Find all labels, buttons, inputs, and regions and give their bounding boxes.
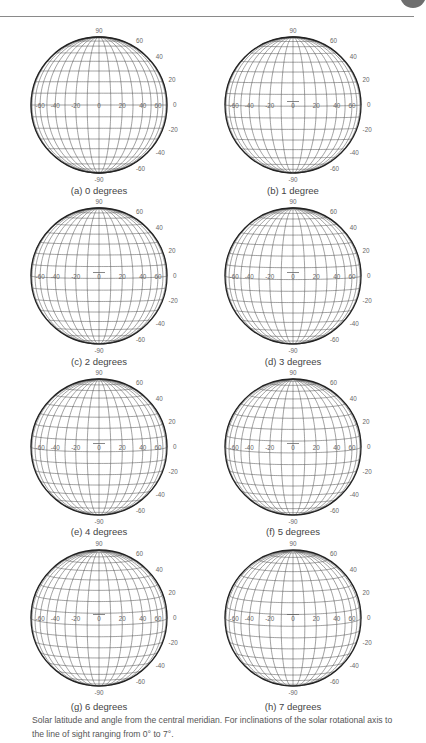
panel-h: -60-40-2002040606040200-20-40-6090-90 (h… [218,537,408,707]
latitude-label: -60 [330,507,340,514]
longitude-label: 20 [119,444,127,451]
latitude-label: -40 [156,320,166,327]
longitude-label: 60 [348,615,356,622]
longitude-label: 40 [333,102,341,109]
longitude-label: 20 [119,615,127,622]
longitude-label: 0 [97,102,101,109]
latitude-label: 0 [367,101,371,108]
latitude-label: -20 [363,639,373,646]
longitude-label: 40 [333,273,341,280]
latitude-label: -20 [363,297,373,304]
longitude-label: -60 [230,102,240,109]
meridian-line [99,379,133,515]
north-pole-label: 90 [95,198,103,205]
latitude-label: 20 [363,418,371,425]
panel-g: -60-40-2002040606040200-20-40-6090-90 (g… [24,537,214,707]
latitude-label: -20 [169,297,179,304]
meridian-line [99,379,111,515]
figure-caption: Solar latitude and angle from the centra… [32,713,404,741]
panel-caption: (e) 4 degrees [24,526,174,537]
north-pole-label: 90 [289,27,297,34]
longitude-label: 40 [139,102,147,109]
longitude-label: 60 [348,444,356,451]
south-pole-label: -90 [94,689,104,696]
north-pole-label: 90 [289,540,297,547]
latitude-label: 60 [330,208,338,215]
meridian-line [99,208,111,344]
latitude-label: -60 [330,336,340,343]
longitude-label: 20 [313,102,321,109]
solar-grid-globe: -60-40-2002040606040200-20-40-6090-90 [218,366,408,526]
latitude-label: -20 [363,468,373,475]
longitude-label: -20 [71,102,81,109]
latitude-label: 40 [156,566,164,573]
longitude-label: -40 [245,273,255,280]
meridian-line [259,551,293,686]
north-pole-label: 90 [289,369,297,376]
longitude-label: 0 [291,615,295,622]
south-pole-label: -90 [94,176,104,183]
longitude-label: 60 [154,444,162,451]
meridian-line [229,208,293,343]
north-pole-label: 90 [289,198,297,205]
south-pole-label: -90 [288,176,298,183]
latitude-label: 20 [169,418,177,425]
latitude-label: -60 [136,336,146,343]
longitude-label: 40 [333,444,341,451]
latitude-label: 60 [136,379,144,386]
longitude-label: -20 [71,444,81,451]
meridian-line [65,379,99,515]
south-pole-label: -90 [288,689,298,696]
solar-grid-globe: -60-40-2002040606040200-20-40-6090-90 [218,537,408,697]
meridian-line [293,208,327,344]
longitude-label: 60 [154,102,162,109]
panel-c: -60-40-2002040606040200-20-40-6090-90 (c… [24,195,214,365]
latitude-label: 40 [350,566,358,573]
solar-grid-globe: -60-40-2002040606040200-20-40-6090-90 [218,24,408,184]
latitude-label: -60 [136,507,146,514]
south-pole-label: -90 [94,347,104,354]
longitude-label: -40 [51,273,61,280]
latitude-label: 20 [363,76,371,83]
north-pole-label: 90 [95,540,103,547]
longitude-label: -20 [71,615,81,622]
latitude-label: -40 [156,149,166,156]
longitude-label: -40 [245,615,255,622]
longitude-label: 0 [97,615,101,622]
latitude-label: 60 [330,37,338,44]
latitude-label: -40 [156,491,166,498]
panel-caption: (f) 5 degrees [218,526,368,537]
meridian-line [293,208,357,343]
latitude-label: -40 [156,662,166,669]
longitude-label: 60 [154,273,162,280]
longitude-label: -40 [51,615,61,622]
longitude-label: 20 [313,615,321,622]
panel-e: -60-40-2002040606040200-20-40-6090-90 (e… [24,366,214,536]
meridian-line [259,208,293,344]
latitude-label: 20 [169,247,177,254]
solar-grid-globe: -60-40-2002040606040200-20-40-6090-90 [218,195,408,355]
latitude-label: 0 [173,443,177,450]
latitude-label: -60 [136,165,146,172]
south-pole-label: -90 [288,518,298,525]
south-pole-label: -90 [288,347,298,354]
meridian-line [293,551,305,686]
meridian-line [293,379,305,515]
north-pole-label: 90 [95,27,103,34]
panel-d: -60-40-2002040606040200-20-40-6090-90 (d… [218,195,408,365]
longitude-label: -60 [230,273,240,280]
solar-grid-globe: -60-40-2002040606040200-20-40-6090-90 [24,537,214,697]
longitude-label: -60 [230,615,240,622]
latitude-label: -40 [350,149,360,156]
latitude-label: -40 [350,320,360,327]
longitude-label: 20 [313,444,321,451]
longitude-label: 40 [333,615,341,622]
longitude-label: -20 [71,273,81,280]
latitude-label: 60 [136,37,144,44]
latitude-label: -20 [169,468,179,475]
latitude-label: -20 [169,126,179,133]
longitude-label: -40 [51,102,61,109]
latitude-label: 40 [156,224,164,231]
longitude-label: 0 [97,273,101,280]
longitude-label: -40 [245,102,255,109]
